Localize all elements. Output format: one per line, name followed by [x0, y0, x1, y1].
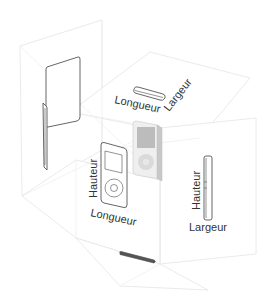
device-button-shaded — [143, 159, 149, 165]
ipod-dimension-diagram: Longueur Largeur Hauteur Longueur Hauteu… — [0, 0, 267, 307]
label-side-width: Largeur — [189, 221, 227, 233]
label-side-height: Hauteur — [190, 171, 202, 210]
device-back-outline — [46, 57, 80, 127]
device-side-shaded — [157, 125, 162, 181]
device-screen-shaded — [137, 127, 155, 148]
label-front-height: Hauteur — [87, 159, 99, 198]
ipod-3d-device — [133, 121, 162, 181]
